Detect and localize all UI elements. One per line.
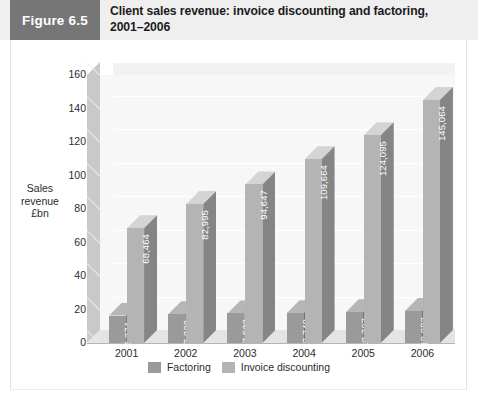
- y-axis-title: Salesrevenue£bn: [14, 182, 66, 220]
- x-axis-tick-label: 2001: [100, 347, 154, 359]
- bar-data-label: 145,064: [436, 106, 447, 141]
- y-axis-title-line: revenue: [14, 195, 66, 208]
- y-axis-title-line: £bn: [14, 207, 66, 220]
- gridline: [113, 297, 455, 298]
- figure-header: Figure 6.5 Client sales revenue: invoice…: [0, 0, 478, 40]
- bar-factoring-2001: 16,374: [109, 303, 126, 343]
- bar-data-label: 82,995: [199, 210, 210, 240]
- y-axis-title-line: Sales: [14, 182, 66, 195]
- y-axis-tick-label: 100: [12, 170, 86, 181]
- y-axis-tick-label: 140: [12, 103, 86, 114]
- bar-invoice-discounting-2003: 94,647: [245, 171, 262, 343]
- bar-factoring-2006: 19,083: [405, 298, 422, 343]
- bar-factoring-2005: 18,307: [346, 299, 363, 343]
- gridline: [113, 163, 455, 164]
- bar-invoice-discounting-2004: 109,664: [305, 146, 322, 343]
- y-axis-tick-label: 20: [12, 304, 86, 315]
- bar-invoice-discounting-2002: 82,995: [186, 191, 203, 343]
- x-axis-line: [87, 343, 455, 344]
- figure-container: Figure 6.5 Client sales revenue: invoice…: [0, 0, 478, 397]
- bar-data-label: 109,664: [318, 165, 329, 200]
- x-axis-tick-label: 2003: [218, 347, 272, 359]
- x-axis-tick-label: 2005: [336, 347, 390, 359]
- y-axis-tick-label: 40: [12, 270, 86, 281]
- y-axis-tick-label: 0: [12, 337, 86, 348]
- gridline: [113, 230, 455, 231]
- legend-label-factoring: Factoring: [167, 362, 211, 373]
- bar-invoice-discounting-2001: 68,464: [127, 215, 144, 343]
- legend-item-invoice-discounting: Invoice discounting: [222, 362, 330, 373]
- x-axis-tick-label: 2004: [277, 347, 331, 359]
- bar-factoring-2004: 17,740: [287, 300, 304, 343]
- legend-swatch-factoring: [148, 362, 161, 373]
- bar-invoice-discounting-2006: 145,064: [423, 87, 440, 343]
- x-axis-tick-label: 2002: [159, 347, 213, 359]
- gridline: [113, 96, 455, 97]
- figure-title: Client sales revenue: invoice discountin…: [110, 4, 460, 35]
- y-axis-tick-label: 60: [12, 237, 86, 248]
- bar-data-label: 124,095: [377, 141, 388, 176]
- gridline: [113, 62, 455, 63]
- bar-invoice-discounting-2005: 124,095: [364, 122, 381, 343]
- y-axis-tick-label: 160: [12, 69, 86, 80]
- bar-data-label: 94,647: [258, 190, 269, 220]
- legend-swatch-invoice-discounting: [222, 362, 235, 373]
- bar-factoring-2003: 17,632: [227, 300, 244, 343]
- figure-number-badge: Figure 6.5: [10, 0, 100, 40]
- bar-data-label: 68,464: [140, 234, 151, 264]
- gridline: [113, 263, 455, 264]
- gridline: [113, 129, 455, 130]
- y-axis-tick-label: 120: [12, 136, 86, 147]
- gridline: [113, 196, 455, 197]
- x-axis-tick-label: 2006: [395, 347, 449, 359]
- legend-label-invoice-discounting: Invoice discounting: [241, 362, 330, 373]
- bar-factoring-2002: 17,222: [168, 301, 185, 343]
- chart-legend: Factoring Invoice discounting: [0, 362, 478, 373]
- figure-number-label: Figure 6.5: [22, 13, 88, 28]
- legend-item-factoring: Factoring: [148, 362, 211, 373]
